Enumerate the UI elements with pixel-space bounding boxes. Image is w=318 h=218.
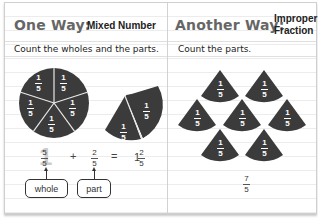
piece-fraction-label: 15 [261,80,268,99]
fifth-pieces-icon [5,3,316,213]
piece-fraction-label: 15 [217,139,224,158]
piece-fraction-label: 15 [239,109,246,128]
improper-fraction-result: 75 [243,175,250,194]
fraction-lesson-card: One Way: Mixed Number Count the wholes a… [4,2,317,214]
piece-fraction-label: 15 [284,109,291,128]
piece-fraction-label: 15 [217,80,224,99]
piece-fraction-label: 15 [261,139,268,158]
piece-fraction-label: 15 [194,109,201,128]
